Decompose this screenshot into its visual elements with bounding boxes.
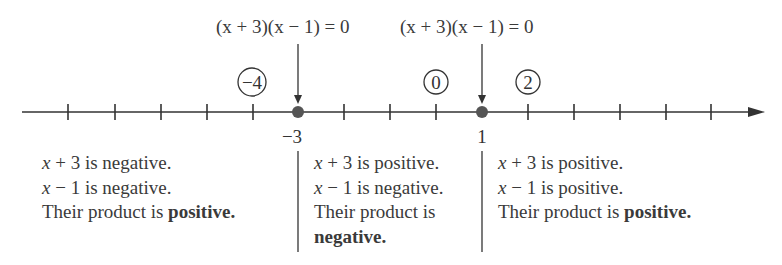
region-text: Their product is bbox=[314, 201, 435, 222]
region-sign: positive. bbox=[624, 201, 691, 222]
arrowhead-icon bbox=[294, 95, 302, 104]
region-text: Their product is bbox=[42, 201, 168, 222]
region-text: + 3 is negative. bbox=[50, 152, 171, 173]
region-sign: positive. bbox=[168, 201, 235, 222]
critical-point-dot bbox=[476, 106, 488, 118]
critical-point-label: −3 bbox=[282, 126, 302, 147]
region-text: Their product is bbox=[498, 201, 624, 222]
region-left: x + 3 is negative. x − 1 is negative. Th… bbox=[42, 151, 235, 225]
region-text: − 1 is negative. bbox=[322, 177, 443, 198]
equation-label: (x + 3)(x − 1) = 0 bbox=[400, 16, 533, 38]
axis-arrowhead-icon bbox=[748, 107, 765, 117]
region-text: − 1 is negative. bbox=[50, 177, 171, 198]
region-sign: negative. bbox=[314, 226, 386, 247]
test-point-label: −4 bbox=[242, 72, 263, 93]
region-right: x + 3 is positive. x − 1 is positive. Th… bbox=[498, 151, 691, 225]
arrowhead-icon bbox=[478, 95, 486, 104]
test-point-label: 2 bbox=[523, 72, 533, 93]
region-middle: x + 3 is positive. x − 1 is negative. Th… bbox=[314, 151, 443, 249]
region-text: + 3 is positive. bbox=[506, 152, 623, 173]
test-point-label: 0 bbox=[431, 72, 441, 93]
critical-point-label: 1 bbox=[477, 126, 487, 147]
critical-point-dot bbox=[292, 106, 304, 118]
region-text: + 3 is positive. bbox=[322, 152, 439, 173]
region-text: − 1 is positive. bbox=[506, 177, 623, 198]
equation-label: (x + 3)(x − 1) = 0 bbox=[216, 16, 349, 38]
